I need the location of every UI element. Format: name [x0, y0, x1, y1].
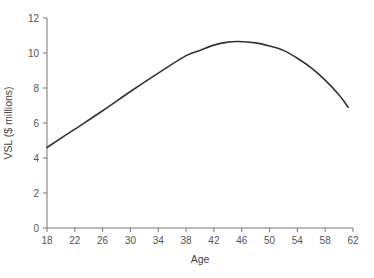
- x-tick-label: 62: [347, 235, 359, 246]
- x-tick-label: 50: [264, 235, 276, 246]
- x-axis-title: Age: [191, 253, 210, 265]
- x-tick-label: 34: [153, 235, 165, 246]
- x-tick-label: 26: [97, 235, 109, 246]
- x-tick-label: 58: [320, 235, 332, 246]
- x-tick-label: 18: [41, 235, 53, 246]
- y-tick-label: 2: [33, 188, 39, 199]
- x-tick-label: 22: [69, 235, 81, 246]
- y-axis: 024681012: [28, 13, 47, 234]
- x-tick-label: 30: [125, 235, 137, 246]
- y-tick-label: 6: [33, 118, 39, 129]
- y-tick-label: 8: [33, 83, 39, 94]
- vsl-curve: [47, 41, 348, 147]
- x-tick-label: 42: [208, 235, 220, 246]
- x-axis: 182226303438424650545862: [41, 228, 359, 246]
- y-axis-title: VSL ($ millions): [2, 86, 14, 159]
- y-tick-label: 12: [28, 13, 40, 24]
- x-tick-label: 38: [181, 235, 193, 246]
- x-tick-label: 46: [236, 235, 248, 246]
- x-tick-label: 54: [292, 235, 304, 246]
- y-tick-label: 0: [33, 223, 39, 234]
- y-tick-label: 10: [28, 48, 40, 59]
- line-chart: 024681012 182226303438424650545862 Age V…: [0, 0, 374, 278]
- y-tick-label: 4: [33, 153, 39, 164]
